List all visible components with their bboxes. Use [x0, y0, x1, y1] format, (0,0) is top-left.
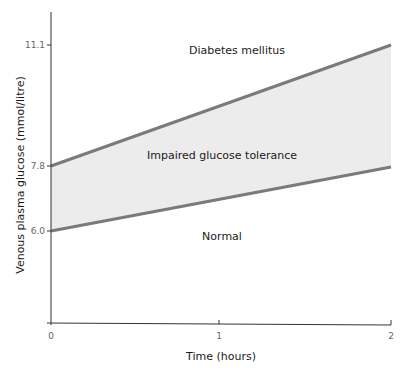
chart: 11.1 7.8 6.0 0 1 2 Time (hours) Venous p…: [0, 0, 407, 375]
igt-band: [51, 45, 391, 231]
y-axis-label: Venous plasma glucose (mmol/litre): [14, 76, 27, 274]
x-axis-label: Time (hours): [185, 350, 256, 363]
region-label-normal: Normal: [202, 230, 242, 243]
y-tick-label: 7.8: [31, 161, 46, 171]
region-label-diabetes: Diabetes mellitus: [189, 44, 285, 57]
y-tick-label: 6.0: [31, 226, 46, 236]
x-tick-label: 2: [388, 331, 394, 341]
x-tick-label: 0: [48, 331, 54, 341]
y-tick-label: 11.1: [25, 40, 45, 50]
region-label-igt: Impaired glucose tolerance: [147, 149, 297, 162]
x-tick-label: 1: [216, 331, 222, 341]
